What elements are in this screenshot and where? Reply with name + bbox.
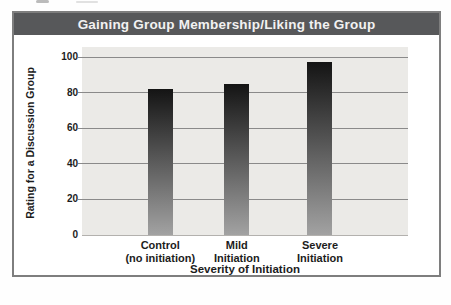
x-category-label-severe-initiation: SevereInitiation <box>260 239 380 265</box>
y-tick-label-40: 40 <box>42 158 78 170</box>
gridline-100 <box>78 57 408 58</box>
cropped-text-artifact <box>76 1 98 3</box>
chart-title: Gaining Group Membership/Liking the Grou… <box>78 17 376 32</box>
bar-mild-initiation <box>224 84 249 235</box>
y-tick-label-0: 0 <box>42 229 78 241</box>
page: Gaining Group Membership/Liking the Grou… <box>0 0 451 305</box>
bar-control-no-initiation <box>148 89 173 235</box>
plot-area <box>82 47 408 236</box>
chart-title-bar: Gaining Group Membership/Liking the Grou… <box>14 13 439 35</box>
figure-frame: Gaining Group Membership/Liking the Grou… <box>12 11 441 277</box>
bar-severe-initiation <box>307 62 332 235</box>
x-category-label-line: Severe <box>260 239 380 252</box>
y-tick-label-20: 20 <box>42 193 78 205</box>
cropped-text-artifact <box>36 0 49 3</box>
y-tick-label-60: 60 <box>42 122 78 134</box>
y-tick-label-100: 100 <box>42 51 78 63</box>
y-axis-title: Rating for a Discussion Group <box>24 67 36 219</box>
x-axis-title: Severity of Initiation <box>82 263 408 275</box>
y-tick-label-80: 80 <box>42 87 78 99</box>
